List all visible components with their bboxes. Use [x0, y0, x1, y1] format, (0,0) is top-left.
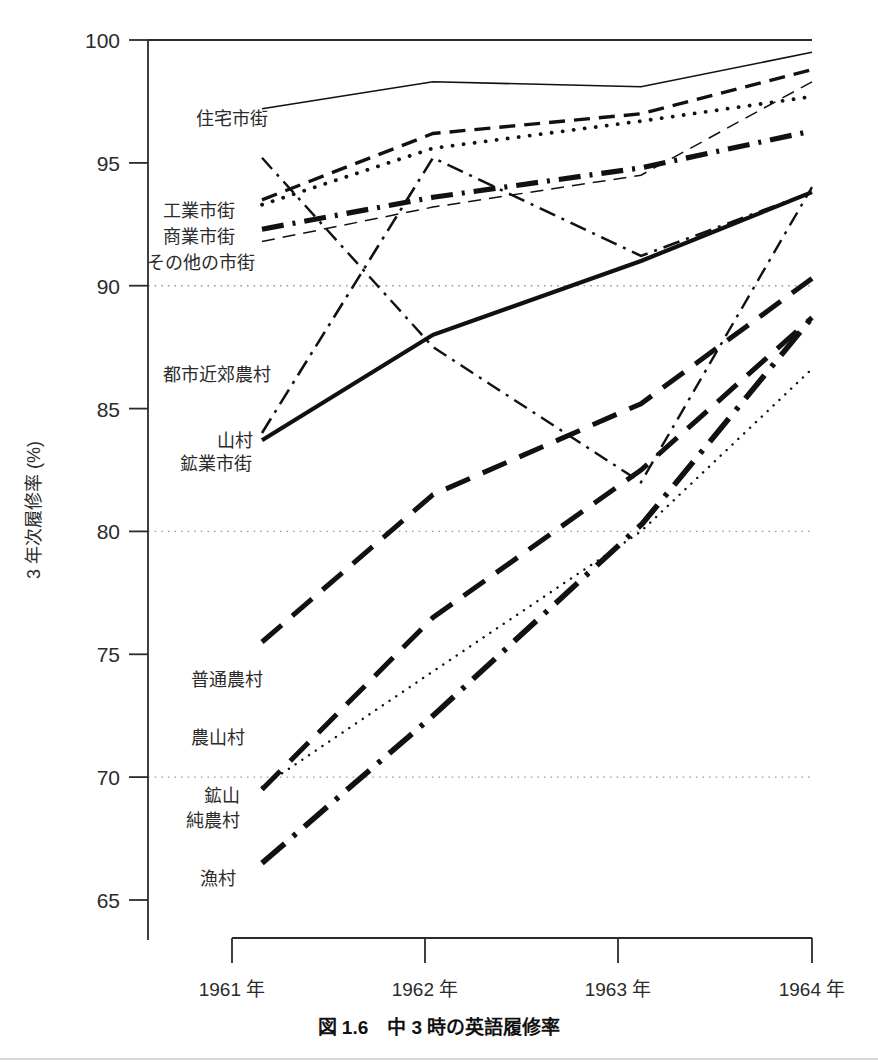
series-line-sonota-no-shigai — [262, 131, 812, 229]
y-tick-80: 80 — [97, 520, 120, 543]
series-label-shogyo-shigai: 商業市街 — [163, 227, 235, 247]
y-tick-85: 85 — [97, 398, 120, 421]
series-line-toshi-kinko-noson — [262, 82, 812, 242]
y-tick-95: 95 — [97, 152, 120, 175]
bottom-rule — [0, 1058, 878, 1060]
series-label-gyoson: 漁村 — [200, 869, 236, 889]
series-line-jutaku-shigai — [262, 52, 812, 109]
series-labels: 住宅市街 工業市街 商業市街 その他の市街 都市近郊農村 山村 鉱業市街 普通農… — [147, 109, 271, 889]
y-axis-ticks — [129, 40, 148, 900]
x-tick-1961: 1961 年 — [199, 979, 266, 1000]
series-lines — [262, 52, 812, 863]
x-axis-tick-labels: 1961 年 1962 年 1963 年 1964 年 — [199, 979, 846, 1000]
series-line-gyoson — [262, 318, 812, 864]
series-label-kogyo-shigai: 工業市街 — [163, 201, 235, 221]
series-line-futsu-noson — [262, 278, 812, 642]
figure-root: 100 95 90 85 80 75 70 65 3 年次履修率 (%) — [0, 0, 878, 1063]
series-label-sanson: 山村 — [217, 431, 253, 451]
y-axis-tick-labels: 100 95 90 85 80 75 70 65 — [85, 29, 120, 912]
figure-caption: 図 1.6 中 3 時の英語履修率 — [0, 1012, 878, 1039]
line-chart: 100 95 90 85 80 75 70 65 3 年次履修率 (%) — [0, 0, 878, 1005]
series-label-kozan: 鉱山 — [204, 786, 240, 806]
y-tick-90: 90 — [97, 275, 120, 298]
y-tick-75: 75 — [97, 643, 120, 666]
y-tick-70: 70 — [97, 766, 120, 789]
series-label-futsu-noson: 普通農村 — [191, 670, 263, 690]
y-axis-title: 3 年次履修率 (%) — [24, 441, 44, 579]
x-tick-1962: 1962 年 — [392, 979, 459, 1000]
x-tick-1964: 1964 年 — [779, 979, 846, 1000]
x-tick-1963: 1963 年 — [585, 979, 652, 1000]
series-label-toshi-kinko-noson: 都市近郊農村 — [163, 365, 271, 385]
series-label-kogyo-shigai-mining: 鉱業市街 — [180, 454, 252, 474]
series-line-nosanson — [262, 158, 812, 483]
y-tick-65: 65 — [97, 889, 120, 912]
series-line-kozan — [262, 369, 812, 787]
series-label-sonota-no-shigai: その他の市街 — [147, 253, 255, 273]
series-label-nosanson: 農山村 — [191, 728, 245, 748]
x-axis — [232, 938, 812, 963]
y-tick-100: 100 — [85, 29, 120, 52]
series-label-jutaku-shigai: 住宅市街 — [196, 109, 268, 129]
series-line-kogyo-shigai-mining — [262, 192, 812, 440]
series-label-jun-noson: 純農村 — [186, 811, 240, 831]
